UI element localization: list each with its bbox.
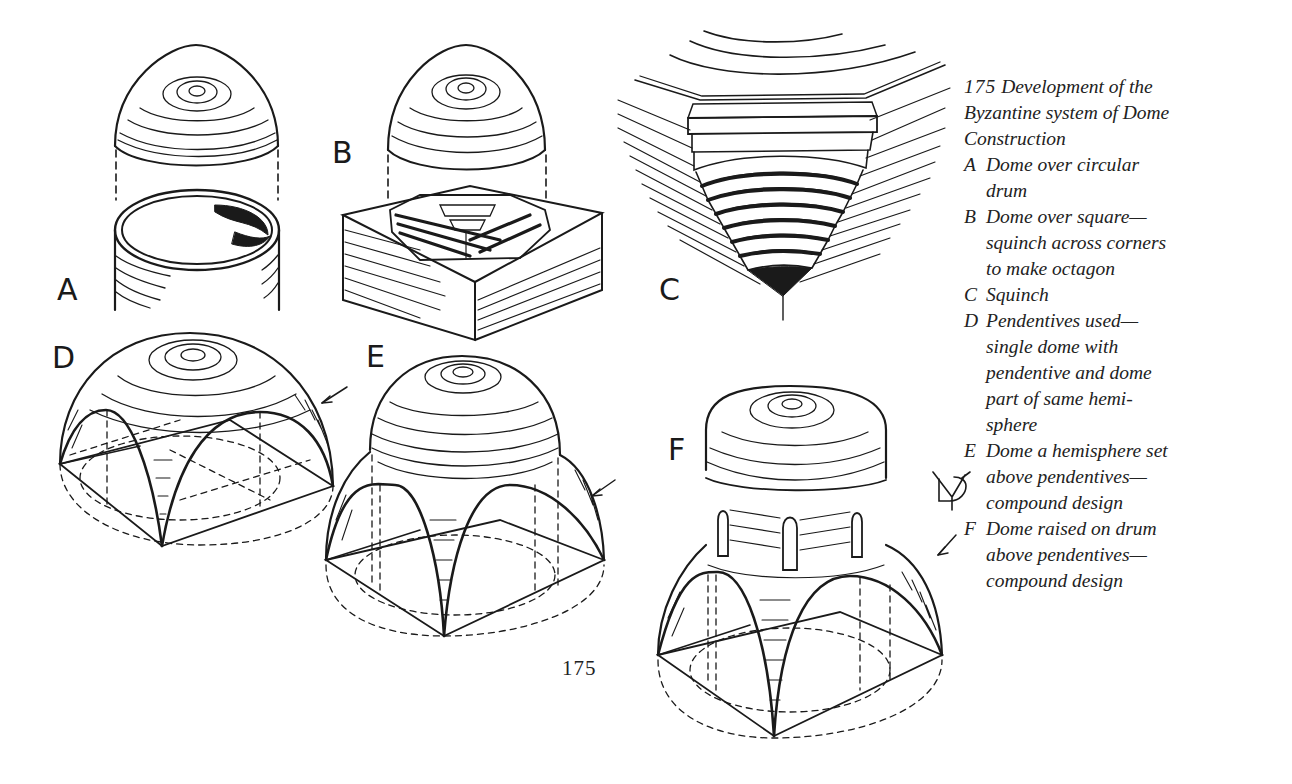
caption-title: 175 Development of the (964, 74, 1274, 100)
drawing-f-dome-on-drum (658, 386, 970, 738)
caption-item-e: E Dome a hemisphere set above pendentive… (964, 438, 1274, 516)
drawing-label-c: C (659, 272, 680, 307)
figure-175: A B C D E F 175 Development of the Byzan… (0, 0, 1292, 784)
caption-item-f: F Dome raised on drum above pendentives—… (964, 516, 1274, 594)
caption-title-line: Byzantine system of Dome (964, 100, 1274, 126)
drawing-label-e: E (366, 339, 385, 374)
drawing-e-dome-above-pendentives (326, 356, 615, 636)
caption-item-d: D Pendentives used— single dome with pen… (964, 308, 1274, 438)
figure-number: 175 (964, 76, 996, 97)
figure-caption: 175 Development of the Byzantine system … (964, 74, 1274, 594)
drawing-a-dome-over-drum (115, 45, 279, 310)
drawing-d-pendentive-dome (60, 333, 347, 546)
drawing-b-dome-over-square (343, 45, 602, 340)
caption-item-b: B Dome over square— squinch across corne… (964, 204, 1274, 282)
drawing-label-a: A (57, 272, 78, 307)
drawing-label-b: B (332, 135, 353, 170)
caption-item-a: A Dome over circular drum (964, 152, 1274, 204)
caption-title-line: Construction (964, 126, 1274, 152)
caption-item-c: C Squinch (964, 282, 1274, 308)
page-number: 175 (562, 656, 597, 681)
drawing-label-f: F (668, 432, 685, 467)
drawing-label-d: D (52, 340, 75, 375)
